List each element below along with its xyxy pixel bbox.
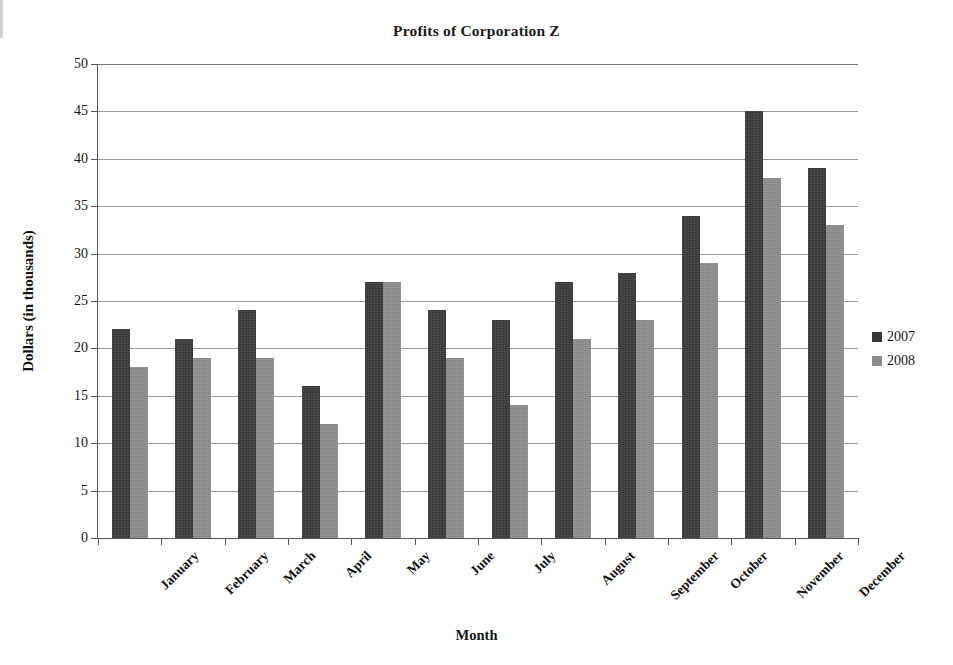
bar-2008 bbox=[763, 178, 781, 538]
x-tick-mark bbox=[351, 538, 352, 545]
x-tick-mark bbox=[541, 538, 542, 545]
x-tick-mark bbox=[225, 538, 226, 545]
x-tick-mark bbox=[795, 538, 796, 545]
x-tick-label: March bbox=[281, 548, 320, 587]
bar-2007 bbox=[808, 168, 826, 538]
bar-2008 bbox=[383, 282, 401, 538]
bar-group bbox=[745, 64, 781, 538]
x-axis-title: Month bbox=[0, 627, 953, 644]
bar-2007 bbox=[238, 310, 256, 538]
y-tick-label: 30 bbox=[74, 246, 88, 262]
y-tick-label: 50 bbox=[74, 56, 88, 72]
y-tick-label: 15 bbox=[74, 388, 88, 404]
x-tick-label: August bbox=[598, 548, 638, 588]
bar-group bbox=[808, 64, 844, 538]
bar-2007 bbox=[745, 111, 763, 538]
x-tick-mark bbox=[161, 538, 162, 545]
bar-group bbox=[302, 64, 338, 538]
x-tick-label: November bbox=[794, 548, 848, 602]
legend-swatch-2008 bbox=[872, 356, 882, 366]
y-tick-mark bbox=[91, 111, 98, 112]
x-tick-label: July bbox=[530, 548, 559, 577]
y-axis-title: Dollars (in thousands) bbox=[20, 230, 37, 372]
x-tick-mark bbox=[415, 538, 416, 545]
x-tick-mark bbox=[98, 538, 99, 545]
x-tick-label: December bbox=[856, 548, 909, 601]
x-tick-mark bbox=[731, 538, 732, 545]
y-tick-mark bbox=[91, 159, 98, 160]
gridline bbox=[98, 491, 858, 492]
bar-2008 bbox=[256, 358, 274, 538]
bar-2007 bbox=[618, 273, 636, 538]
bar-2007 bbox=[365, 282, 383, 538]
bar-2008 bbox=[636, 320, 654, 538]
bar-group bbox=[238, 64, 274, 538]
bar-2008 bbox=[826, 225, 844, 538]
bar-2008 bbox=[320, 424, 338, 538]
x-tick-mark bbox=[668, 538, 669, 545]
y-tick-label: 10 bbox=[74, 435, 88, 451]
bar-2007 bbox=[175, 339, 193, 538]
y-tick-label: 5 bbox=[81, 483, 88, 499]
x-tick-label: May bbox=[404, 548, 434, 578]
bar-2008 bbox=[573, 339, 591, 538]
bar-2007 bbox=[555, 282, 573, 538]
bar-group bbox=[682, 64, 718, 538]
y-tick-label: 20 bbox=[74, 340, 88, 356]
y-tick-label: 45 bbox=[74, 103, 88, 119]
y-tick-mark bbox=[91, 396, 98, 397]
y-tick-mark bbox=[91, 301, 98, 302]
bar-2007 bbox=[112, 329, 130, 538]
legend-item: 2007 bbox=[872, 325, 950, 349]
legend-label-2007: 2007 bbox=[887, 329, 915, 345]
bar-2008 bbox=[130, 367, 148, 538]
bar-group bbox=[112, 64, 148, 538]
legend-item: 2008 bbox=[872, 349, 950, 373]
bar-2008 bbox=[700, 263, 718, 538]
bar-2007 bbox=[682, 216, 700, 538]
gridline bbox=[98, 159, 858, 160]
y-tick-mark bbox=[91, 348, 98, 349]
bar-2007 bbox=[492, 320, 510, 538]
bar-2007 bbox=[428, 310, 446, 538]
bar-group bbox=[492, 64, 528, 538]
y-tick-mark bbox=[91, 254, 98, 255]
bar-group bbox=[555, 64, 591, 538]
plot-area: 50454035302520151050 bbox=[97, 64, 858, 539]
y-tick-label: 0 bbox=[81, 530, 88, 546]
y-tick-label: 35 bbox=[74, 198, 88, 214]
gridline bbox=[98, 64, 858, 65]
bar-group bbox=[175, 64, 211, 538]
legend-label-2008: 2008 bbox=[887, 353, 915, 369]
legend-swatch-2007 bbox=[872, 332, 882, 342]
x-tick-label: September bbox=[668, 548, 723, 603]
y-tick-mark bbox=[91, 206, 98, 207]
x-tick-label: January bbox=[157, 548, 202, 593]
bar-group bbox=[365, 64, 401, 538]
y-tick-mark bbox=[91, 491, 98, 492]
x-tick-label: October bbox=[726, 548, 771, 593]
gridline bbox=[98, 254, 858, 255]
x-tick-label: June bbox=[467, 548, 498, 579]
chart-title: Profits of Corporation Z bbox=[0, 22, 953, 40]
bar-2008 bbox=[510, 405, 528, 538]
gridline bbox=[98, 396, 858, 397]
gridline bbox=[98, 206, 858, 207]
bar-2008 bbox=[446, 358, 464, 538]
bar-2008 bbox=[193, 358, 211, 538]
gridline bbox=[98, 111, 858, 112]
y-tick-mark bbox=[91, 538, 98, 539]
y-tick-mark bbox=[91, 443, 98, 444]
x-tick-label: February bbox=[222, 548, 272, 598]
bar-2007 bbox=[302, 386, 320, 538]
chart-legend: 2007 2008 bbox=[872, 325, 950, 373]
y-tick-label: 40 bbox=[74, 151, 88, 167]
x-tick-mark bbox=[858, 538, 859, 545]
y-tick-mark bbox=[91, 64, 98, 65]
gridline bbox=[98, 443, 858, 444]
chart-figure: Profits of Corporation Z Dollars (in tho… bbox=[0, 0, 953, 665]
x-tick-mark bbox=[288, 538, 289, 545]
x-tick-mark bbox=[478, 538, 479, 545]
y-tick-label: 25 bbox=[74, 293, 88, 309]
bar-group bbox=[618, 64, 654, 538]
